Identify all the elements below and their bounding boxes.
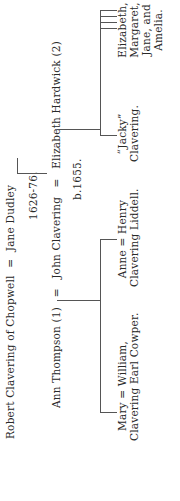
mary-drop: [100, 412, 117, 413]
daughters-drop-4: [100, 28, 117, 29]
gen2-couple: Ann Thompson (1) = John Clavering = Eliz…: [50, 41, 62, 408]
marriage-sign: =: [4, 259, 16, 268]
child-jacky: “Jacky” Clavering.: [116, 106, 140, 162]
anne-drop: [100, 239, 117, 240]
marriage-sign-2: =: [50, 178, 62, 187]
robert-dates: 1626-76.: [27, 171, 39, 220]
elizabeth-hardwick: Elizabeth Hardwick (2): [50, 41, 62, 169]
daughters-drop-2: [100, 16, 117, 17]
child-mary: Mary = William, Clavering Earl Cowper.: [116, 331, 140, 441]
descent-line-top: [17, 158, 18, 174]
daughters-drop-1: [100, 10, 117, 11]
robert-clavering: Robert Clavering of Chopwell: [4, 275, 16, 439]
gen1-couple: Robert Clavering of Chopwell = Jane Dudl…: [4, 185, 16, 439]
marriage-sign-1: =: [50, 288, 62, 297]
second-marriage-drop: [57, 129, 100, 130]
first-marriage-drop: [57, 300, 100, 301]
john-clavering: John Clavering: [50, 197, 62, 279]
descent-line: [17, 173, 47, 174]
child-anne: Anne = Henry Clavering Liddell.: [116, 191, 140, 287]
ann-thompson: Ann Thompson (1): [50, 307, 62, 408]
first-marriage-sibling-bar: [100, 239, 101, 413]
john-dates: b.1655.: [71, 158, 83, 200]
jacky-drop: [100, 135, 117, 136]
jane-dudley: Jane Dudley: [4, 185, 16, 251]
child-daughters: Elizabeth, Margaret, Jane, and Amelia.: [116, 0, 164, 60]
daughters-drop-3: [100, 22, 117, 23]
genealogy-tree: Robert Clavering of Chopwell = Jane Dudl…: [0, 0, 180, 501]
